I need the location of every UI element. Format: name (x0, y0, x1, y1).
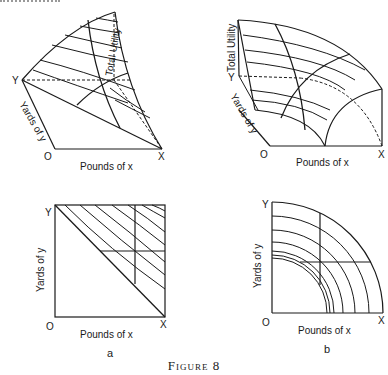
panel-b-3d-surface (238, 20, 382, 146)
panel-b-2d-map (272, 202, 383, 313)
panel-b-bottom-x-label: X (378, 316, 385, 326)
panel-a-bottom-x-axis-title: Pounds of x (80, 330, 133, 340)
panel-a-bottom-origin-label: O (46, 322, 54, 332)
panel-a-top-y-label: Y (12, 76, 19, 86)
panel-b-top-x-axis-title: Pounds of x (296, 158, 349, 168)
panel-a-bottom-x-label: X (160, 320, 167, 330)
panel-b-top-x-label: X (378, 150, 385, 160)
panel-b-sublabel: b (324, 344, 330, 355)
panel-b-top-origin-label: O (260, 150, 268, 160)
panel-b-bottom-x-axis-title: Pounds of x (298, 326, 351, 336)
panel-b-bottom-y-axis-title: Yards of y (253, 244, 263, 288)
panel-b-top-y-label: Y (228, 73, 235, 83)
panel-a-bottom-y-axis-title: Yards of y (36, 248, 46, 292)
panel-a-top-x-axis-title: Pounds of x (80, 162, 133, 172)
panel-b-bottom-origin-label: O (262, 318, 270, 328)
panel-b-bottom-y-label: Y (262, 200, 269, 210)
figure-caption: Figure 8 (0, 358, 388, 374)
figure-drawing (0, 0, 388, 375)
panel-a-top-x-label: X (158, 152, 165, 162)
panel-b-top-z-axis-title: Total Utility (227, 24, 237, 72)
panel-a-top-origin-label: O (44, 152, 52, 162)
panel-a-2d-map (55, 205, 165, 317)
panel-a-bottom-y-label: Y (45, 208, 52, 218)
